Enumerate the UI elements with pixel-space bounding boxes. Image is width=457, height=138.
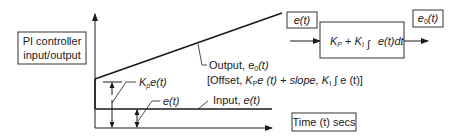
- kp-label: Kpe(t): [139, 76, 167, 90]
- input-signal-label: e(t): [294, 14, 311, 26]
- et-leader: [138, 101, 160, 121]
- time-label: Time (t) secs: [292, 116, 356, 128]
- kp-leader: [112, 82, 136, 103]
- time-axis-box: Time (t) secs: [292, 113, 356, 131]
- title-line-2: input/output: [23, 49, 81, 61]
- input-label: Input, e(t): [213, 94, 260, 106]
- output-label: Output, e0(t): [209, 59, 269, 72]
- title-line-1: PI controller: [23, 35, 82, 47]
- et-label: e(t): [163, 95, 180, 107]
- title-box: PI controller input/output: [18, 32, 86, 64]
- output-signal-label: e0(t): [418, 12, 439, 25]
- integrand: e(t)dt: [378, 35, 405, 47]
- block-diagram: e(t) KP + KI ∫ e(t)dt e0(t): [287, 10, 443, 58]
- output-leader: [198, 44, 207, 65]
- transfer-function-kp: KP + KI: [330, 35, 364, 48]
- pi-controller-diagram: PI controller input/output Kpe(t) e(t) I…: [0, 0, 457, 138]
- output-formula: [Offset, KPe (t) + slope, KI ∫ e (t)]: [207, 74, 363, 87]
- input-leader: [198, 101, 208, 109]
